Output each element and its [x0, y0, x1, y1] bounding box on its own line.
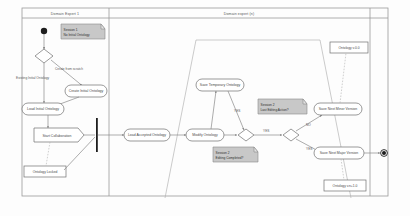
decision-editing-completed[interactable]	[238, 129, 254, 141]
note-last-editing-line-2: Last Editing Action?	[261, 108, 289, 112]
note-last-editing-line-1: Session 2	[261, 103, 275, 107]
activity-start-collaboration-label: Start Collaboration	[43, 134, 72, 138]
guard-existing-initial-ontology: Existing Initial Ontology	[16, 76, 50, 80]
note-editing-completed-line-2: Editing Completed?	[216, 156, 244, 160]
activity-modify-ontology-label: Modify Ontology	[192, 133, 218, 137]
activity-save-temporary-ontology-label: Save Temporary Ontology	[200, 83, 241, 87]
flow-modify-to-save-temp	[211, 91, 216, 129]
guard-create-from-scratch: Create from scratch	[55, 67, 83, 71]
partition-title-right: Domain expert (n)	[224, 12, 254, 16]
guard-yes-last-editing: YES	[306, 147, 312, 151]
activity-diagram-canvas: Domain Expert 1 Domain expert (n) Create…	[0, 0, 410, 216]
activity-save-next-minor-version-label: Save Next Minor Version	[319, 107, 358, 111]
activity-load-accepted-ontology-label: Load Accepted Ontology	[128, 133, 166, 137]
note-session-1-line-2: No Initial Ontology	[64, 33, 90, 37]
flow-create-from-scratch	[51, 60, 82, 86]
activity-create-initial-ontology-label: Create Initial Ontology	[69, 89, 104, 93]
guard-no-last-editing: NO	[306, 123, 311, 127]
guard-yes-editing-completed: YES	[263, 129, 269, 133]
dependency-collab-to-locked	[46, 142, 50, 166]
final-node-inner	[382, 151, 386, 155]
interruptible-region-boundary	[165, 40, 351, 198]
artifact-ontology-v0-label: Ontology v.0.0	[338, 46, 359, 50]
guard-yes-save-temp: YES	[234, 109, 240, 113]
dependency-minor-to-v0	[340, 53, 346, 103]
dependency-major-to-vnn1	[341, 159, 344, 180]
note-session-1-line-1: Session 1	[64, 28, 78, 32]
activity-load-initial-ontology-label: Load Initial Ontology	[27, 107, 59, 111]
fork-join-bar	[96, 118, 98, 152]
initial-node	[41, 28, 47, 34]
note-session-editing-completed: Session 2 Editing Completed?	[213, 147, 258, 162]
uml-activity-diagram: Domain Expert 1 Domain expert (n) Create…	[0, 0, 410, 216]
note-session-1: Session 1 No Initial Ontology	[61, 24, 105, 39]
note-session-last-editing: Session 2 Last Editing Action?	[258, 99, 307, 114]
partition-title-left: Domain Expert 1	[51, 12, 79, 16]
decision-initial-ontology	[35, 49, 53, 63]
artifact-ontology-vnn1-label: Ontology v.n+1.0	[333, 184, 358, 188]
activity-save-next-major-version-label: Save Next Major Version	[320, 151, 359, 155]
artifact-ontology-locked-label: Ontology Locked	[33, 170, 58, 174]
note-editing-completed-line-1: Session 2	[216, 151, 230, 155]
